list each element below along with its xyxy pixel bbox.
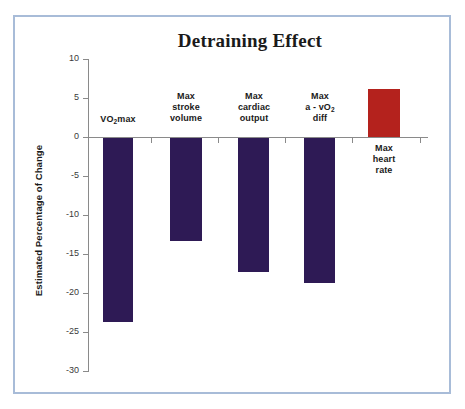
y-tick-mark bbox=[83, 332, 89, 333]
y-tick-label: -20 bbox=[53, 288, 79, 297]
y-tick-label: 5 bbox=[53, 93, 79, 102]
bar-label-line: diff bbox=[285, 113, 355, 124]
bar-label-max-heart-rate: Max heart rate bbox=[349, 143, 419, 176]
bar-label-line: heart bbox=[349, 154, 419, 165]
bar-label-max-a-vo2-diff: Max a - vO2 diff bbox=[285, 91, 355, 124]
subscript-2: 2 bbox=[331, 106, 335, 113]
y-axis-title: Estimated Percentage of Change bbox=[33, 136, 44, 306]
bar-label-text: a - vO bbox=[305, 102, 331, 112]
bar-label-line: output bbox=[218, 113, 290, 124]
bar-label-line: Max bbox=[285, 91, 355, 102]
bar-label-max-stroke-volume: Max stroke volume bbox=[151, 91, 221, 124]
bar-max-cardiac-output bbox=[238, 138, 269, 272]
bar-label-line: a - vO2 bbox=[285, 102, 355, 113]
y-tick-mark bbox=[83, 215, 89, 216]
x-tick-mark bbox=[151, 137, 152, 143]
y-tick-label: 10 bbox=[53, 54, 79, 63]
y-tick-label: -10 bbox=[53, 210, 79, 219]
bar-label-text: VO bbox=[100, 114, 113, 124]
x-tick-mark bbox=[218, 137, 219, 143]
bar-label-line: rate bbox=[349, 165, 419, 176]
y-tick-mark bbox=[83, 371, 89, 372]
bar-label-line: Max bbox=[349, 143, 419, 154]
x-tick-mark bbox=[420, 137, 421, 143]
y-tick-label: -30 bbox=[53, 366, 79, 375]
bar-max-a-vo2-diff bbox=[304, 138, 335, 283]
x-tick-mark bbox=[285, 137, 286, 143]
bar-label-line: volume bbox=[151, 113, 221, 124]
figure-container: Detraining Effect Estimated Percentage o… bbox=[0, 0, 465, 409]
bar-label-line: stroke bbox=[151, 102, 221, 113]
bar-label-vo2max: VO2max bbox=[83, 114, 153, 125]
y-tick-mark bbox=[83, 137, 89, 138]
chart-title: Detraining Effect bbox=[140, 30, 360, 52]
bar-label-line: Max bbox=[218, 91, 290, 102]
bar-label-line: cardiac bbox=[218, 102, 290, 113]
plot-area: Detraining Effect Estimated Percentage o… bbox=[0, 0, 465, 409]
y-tick-mark bbox=[83, 176, 89, 177]
bar-label-max-cardiac-output: Max cardiac output bbox=[218, 91, 290, 124]
bar-vo2max bbox=[103, 138, 133, 322]
y-tick-label: 0 bbox=[53, 132, 79, 141]
y-tick-label: -25 bbox=[53, 327, 79, 336]
y-tick-mark bbox=[83, 98, 89, 99]
bar-label-text: max bbox=[117, 114, 135, 124]
bar-max-stroke-volume bbox=[170, 138, 202, 241]
subscript-2: 2 bbox=[114, 118, 118, 125]
y-tick-mark bbox=[83, 59, 89, 60]
y-tick-label: -5 bbox=[53, 171, 79, 180]
bar-label-line: Max bbox=[151, 91, 221, 102]
y-tick-mark bbox=[83, 254, 89, 255]
bar-max-heart-rate bbox=[368, 89, 400, 137]
y-tick-mark bbox=[83, 293, 89, 294]
y-tick-label: -15 bbox=[53, 249, 79, 258]
